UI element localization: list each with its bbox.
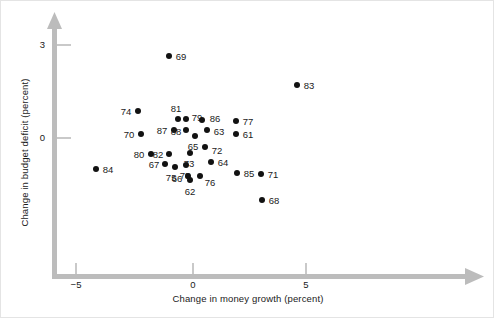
- data-point: [172, 164, 178, 170]
- data-point-label: 83: [304, 79, 315, 90]
- data-point-label: 62: [185, 185, 196, 196]
- data-point-label: 64: [218, 156, 229, 167]
- data-point-label: 67: [149, 159, 160, 170]
- data-point-label: 63: [214, 125, 225, 136]
- data-point-label: 70: [124, 128, 135, 139]
- data-point: [93, 166, 99, 172]
- data-point: [199, 117, 205, 123]
- data-point: [202, 144, 208, 150]
- data-point: [192, 133, 198, 139]
- data-point-label: 68: [269, 195, 280, 206]
- data-point-label: 88: [171, 125, 182, 136]
- axes-graphic: [1, 1, 494, 318]
- data-point: [187, 150, 193, 156]
- data-point-label: 74: [121, 106, 132, 117]
- data-point: [197, 173, 203, 179]
- scatter-plot-figure: 3 0 −5 0 5 Change in money growth (perce…: [0, 0, 494, 318]
- data-point: [233, 118, 239, 124]
- data-point: [204, 127, 210, 133]
- data-point-label: 81: [171, 103, 182, 114]
- data-point: [294, 82, 300, 88]
- data-point: [175, 116, 181, 122]
- data-point-label: 85: [244, 168, 255, 179]
- y-tick-label-3: 3: [11, 39, 45, 50]
- data-point: [166, 53, 172, 59]
- data-point-label: 84: [103, 164, 114, 175]
- x-axis-title: Change in money growth (percent): [1, 293, 494, 304]
- data-point-label: 80: [134, 149, 145, 160]
- data-point: [166, 151, 172, 157]
- data-point: [234, 170, 240, 176]
- data-point: [162, 161, 168, 167]
- data-point: [208, 159, 214, 165]
- y-axis-title: Change in budget deficit (percent): [19, 53, 30, 253]
- data-point: [183, 116, 189, 122]
- x-tick-label-5: 5: [286, 279, 326, 290]
- data-point: [259, 197, 265, 203]
- data-point: [183, 162, 189, 168]
- x-tick-label-minus5: −5: [56, 279, 96, 290]
- x-tick-label-0: 0: [173, 279, 213, 290]
- data-point-label: 61: [243, 128, 254, 139]
- data-point-label: 71: [268, 168, 279, 179]
- data-point: [138, 131, 144, 137]
- data-point-label: 87: [157, 124, 168, 135]
- data-point: [233, 131, 239, 137]
- data-point-label: 72: [212, 144, 223, 155]
- data-point-label: 76: [205, 177, 216, 188]
- data-point-label: 69: [176, 50, 187, 61]
- data-point-label: 77: [243, 115, 254, 126]
- data-point-label: 66: [172, 173, 183, 184]
- data-point: [258, 171, 264, 177]
- data-point-label: 86: [210, 113, 221, 124]
- data-point: [135, 108, 141, 114]
- x-axis-arrow-icon: [465, 268, 484, 285]
- y-axis-arrow-icon: [47, 12, 62, 29]
- data-point: [183, 127, 189, 133]
- data-point: [187, 177, 193, 183]
